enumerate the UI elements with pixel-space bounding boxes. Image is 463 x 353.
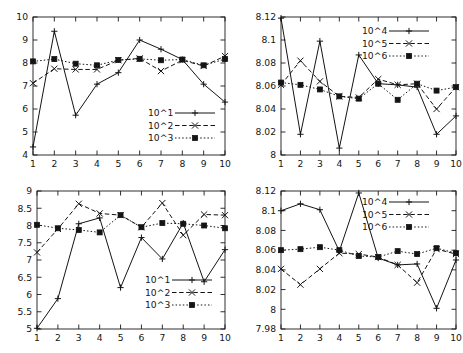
y-tick-label: 8.08	[256, 225, 277, 236]
legend-label-10^4: 10^4	[362, 196, 387, 207]
data-point-marker-square	[97, 230, 102, 235]
data-point-marker-plus	[55, 296, 61, 302]
y-tick-label: 8	[270, 149, 276, 160]
data-point-marker-square	[202, 223, 207, 228]
chart-panel-bottom-left: 55.566.577.588.591234567891010^110^210^3	[0, 176, 231, 352]
data-point-marker-plus	[336, 145, 342, 151]
data-point-marker-square	[201, 63, 206, 68]
x-tick-label: 6	[137, 158, 143, 169]
y-tick-label: 9	[26, 185, 32, 196]
y-tick-label: 8.04	[256, 264, 277, 275]
series-polyline	[37, 215, 225, 232]
x-tick-label: 4	[336, 332, 342, 343]
data-point-marker-plus	[317, 207, 323, 213]
data-point-marker-cross	[76, 201, 82, 207]
y-tick-label: 8.02	[256, 284, 276, 295]
y-tick-label: 10	[16, 11, 28, 22]
legend-sample-cross	[172, 289, 212, 295]
data-point-marker-square	[95, 63, 100, 68]
data-point-marker-plus	[51, 28, 57, 34]
data-point-marker-square	[434, 88, 439, 93]
data-point-marker-square	[376, 255, 381, 260]
data-point-marker-plus	[192, 110, 198, 116]
x-tick-label: 6	[375, 158, 381, 169]
x-tick-label: 1	[278, 332, 284, 343]
data-point-marker-plus	[433, 305, 439, 311]
legend-sample-plus	[389, 28, 429, 34]
series-10^5	[278, 246, 459, 288]
x-tick-label: 7	[159, 332, 165, 343]
x-tick-label: 2	[298, 158, 304, 169]
x-tick-label: 3	[317, 332, 323, 343]
chart-panel-top-right: 88.028.048.068.088.18.121234567891010^41…	[231, 0, 462, 176]
x-tick-label: 2	[51, 158, 57, 169]
x-tick-label: 1	[30, 158, 36, 169]
x-tick-label: 3	[73, 158, 79, 169]
data-point-marker-square	[407, 54, 412, 59]
x-tick-label: 10	[450, 332, 462, 343]
data-point-marker-square	[395, 249, 400, 254]
x-tick-label: 6	[375, 332, 381, 343]
series-10^6	[279, 80, 459, 102]
data-point-marker-square	[190, 303, 195, 308]
data-point-marker-square	[55, 226, 60, 231]
series-10^3	[31, 56, 228, 67]
legend-label-10^6: 10^6	[362, 221, 387, 232]
y-tick-label: 8.06	[256, 80, 277, 91]
x-tick-label: 9	[201, 332, 207, 343]
legend-sample-square	[389, 225, 429, 230]
data-point-marker-square	[137, 56, 142, 61]
x-tick-label: 10	[219, 332, 231, 343]
legend-sample-cross	[389, 211, 429, 217]
plot-frame	[33, 17, 225, 155]
legend-label-10^1: 10^1	[145, 274, 170, 285]
legend-sample-square	[389, 54, 429, 59]
y-tick-label: 5	[22, 126, 28, 137]
x-tick-label: 9	[201, 158, 207, 169]
legend-label-10^4: 10^4	[362, 25, 387, 36]
data-point-marker-plus	[278, 15, 284, 21]
data-point-marker-square	[376, 81, 381, 86]
data-point-marker-plus	[94, 81, 100, 87]
series-polyline	[37, 218, 225, 328]
chart-panel-top-left: 456789101234567891010^110^210^3	[0, 0, 231, 176]
x-tick-label: 3	[76, 332, 82, 343]
data-point-marker-cross	[180, 232, 186, 238]
data-point-marker-square	[454, 85, 459, 90]
data-point-marker-cross	[317, 78, 323, 84]
data-point-marker-square	[298, 247, 303, 252]
y-tick-label: 7	[22, 80, 28, 91]
x-tick-label: 8	[414, 332, 420, 343]
data-point-marker-square	[407, 225, 412, 230]
plot-bottom-left: 55.566.577.588.591234567891010^110^210^3	[0, 176, 231, 352]
y-tick-label: 6	[22, 103, 28, 114]
data-point-marker-square	[118, 213, 123, 218]
series-10^1	[34, 215, 228, 332]
x-tick-label: 4	[94, 158, 100, 169]
series-polyline	[37, 203, 225, 252]
data-point-marker-square	[159, 58, 164, 63]
data-point-marker-square	[193, 136, 198, 141]
data-point-marker-square	[181, 221, 186, 226]
chart-panel-bottom-right: 7.9888.028.048.068.088.18.12123456789101…	[231, 176, 462, 352]
y-tick-label: 8.5	[17, 203, 32, 214]
x-tick-label: 4	[336, 158, 342, 169]
x-tick-label: 5	[356, 158, 362, 169]
data-point-marker-plus	[222, 247, 228, 253]
data-point-marker-square	[279, 248, 284, 253]
data-point-marker-square	[317, 245, 322, 250]
y-tick-label: 8.12	[256, 185, 276, 196]
plot-top-right: 88.028.048.068.088.18.121234567891010^41…	[231, 0, 462, 176]
y-tick-label: 4	[22, 149, 28, 160]
y-tick-label: 8.04	[256, 103, 277, 114]
series-10^2	[30, 53, 228, 86]
data-point-marker-plus	[406, 28, 412, 34]
legend-label-10^2: 10^2	[148, 120, 173, 131]
legend-sample-plus	[175, 110, 215, 116]
y-tick-label: 8.06	[256, 244, 277, 255]
legend-sample-plus	[389, 199, 429, 205]
data-point-marker-square	[434, 246, 439, 251]
data-point-marker-cross	[201, 211, 207, 217]
series-10^3	[35, 213, 228, 235]
data-point-marker-square	[279, 80, 284, 85]
